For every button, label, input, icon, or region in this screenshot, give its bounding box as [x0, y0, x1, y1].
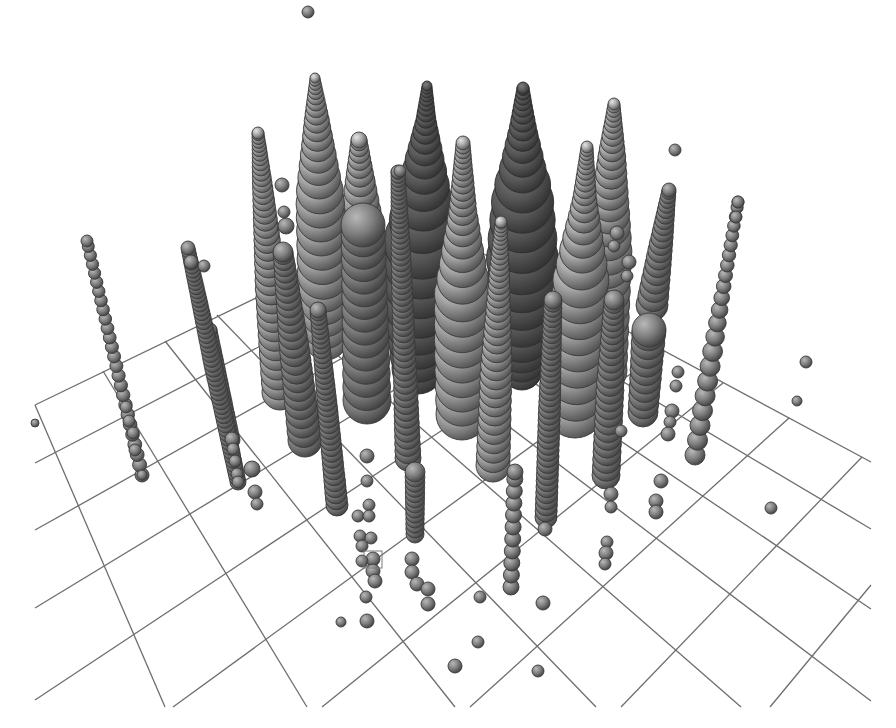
sphere-icon [275, 178, 289, 192]
sphere-icon [129, 444, 141, 456]
sphere-icon [363, 510, 375, 522]
sphere-column-col-415-low [405, 462, 425, 543]
sphere-icon [232, 476, 244, 488]
sphere-icon [137, 470, 147, 480]
sphere-icon [363, 499, 375, 511]
sphere-icon [360, 591, 372, 603]
sphere-icon [608, 240, 620, 252]
sphere-icon [538, 522, 552, 536]
3d-scene [0, 0, 896, 728]
sphere-icon [604, 290, 624, 310]
sphere-icon [605, 501, 617, 513]
sphere-icon [356, 540, 368, 552]
sphere-icon [800, 356, 812, 368]
sphere-icon [252, 127, 264, 139]
sphere-icon [278, 206, 290, 218]
sphere-icon [517, 82, 529, 94]
sphere-icon [123, 415, 135, 427]
sphere-column-col-645 [628, 313, 666, 427]
sphere-icon [120, 401, 132, 413]
sphere-icon [664, 416, 676, 428]
sphere-icon [532, 665, 544, 677]
sphere-icon [421, 597, 435, 611]
sphere-icon [336, 617, 346, 627]
sphere-icon [615, 425, 627, 437]
sphere-icon [599, 558, 611, 570]
sphere-icon [536, 596, 550, 610]
sphere-icon [368, 574, 382, 588]
sphere-icon [610, 226, 624, 240]
sphere-icon [181, 241, 195, 255]
sphere-icon [81, 235, 93, 247]
sphere-icon [278, 218, 294, 234]
sphere-icon [244, 461, 260, 477]
sphere-icon [792, 396, 802, 406]
sphere-icon [405, 552, 419, 566]
sphere-icon [356, 555, 368, 567]
sphere-icon [730, 211, 742, 223]
sphere-icon [360, 614, 374, 628]
sphere-icon [421, 582, 435, 596]
sphere-icon [507, 464, 523, 480]
sphere-icon [732, 196, 744, 208]
sphere-icon [608, 98, 620, 110]
sphere-icon [581, 141, 593, 153]
sphere-icon [251, 498, 263, 510]
sphere-icon [672, 366, 684, 378]
sphere-icon [622, 255, 636, 269]
sphere-column-col-513-low [503, 464, 523, 595]
sphere-icon [456, 136, 470, 150]
sphere-icon [495, 216, 507, 228]
sphere-icon [604, 487, 618, 501]
sphere-icon [184, 255, 198, 269]
sphere-icon [360, 449, 374, 463]
sphere-icon [229, 455, 241, 467]
sphere-icon [361, 475, 373, 487]
sphere-icon [669, 144, 681, 156]
sphere-icon [662, 183, 676, 197]
sphere-icon [127, 427, 139, 439]
sphere-icon [621, 270, 633, 282]
sphere-icon [765, 502, 777, 514]
sphere-icon [422, 81, 432, 91]
sphere-icon [472, 636, 484, 648]
sphere-icon [341, 203, 385, 247]
sphere-column-col-716 [685, 196, 744, 465]
sphere-icon [474, 591, 486, 603]
sphere-icon [405, 462, 425, 482]
sphere-icon [448, 659, 462, 673]
sphere-icon [310, 302, 326, 318]
sphere-icon [227, 443, 239, 455]
sphere-icon [31, 419, 39, 427]
sphere-icon [352, 510, 364, 522]
sphere-icon [670, 380, 682, 392]
sphere-icon [649, 505, 663, 519]
sphere-icon [248, 485, 262, 499]
sphere-icon [302, 6, 314, 18]
sphere-icon [632, 313, 666, 347]
sphere-column-cone-665 [636, 183, 676, 321]
sphere-icon [310, 73, 320, 83]
grid-line [770, 585, 871, 707]
sphere-icon [351, 132, 367, 148]
sphere-column-stack-360-body [341, 203, 391, 424]
sphere-icon [198, 260, 210, 272]
sphere-icon [544, 291, 562, 309]
sphere-icon [273, 242, 293, 262]
sphere-icon [654, 474, 668, 488]
grid-line [35, 405, 165, 707]
sphere-icon [661, 427, 675, 441]
sphere-icon [394, 165, 406, 177]
